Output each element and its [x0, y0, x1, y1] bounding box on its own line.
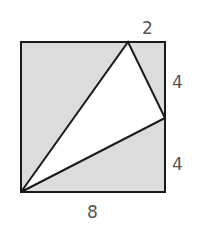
- label-bottom: 8: [87, 202, 98, 222]
- geometry-diagram: 2 4 4 8: [0, 0, 197, 229]
- label-right-lower: 4: [172, 154, 183, 174]
- label-top-segment: 2: [142, 18, 153, 38]
- label-right-upper: 4: [172, 72, 183, 92]
